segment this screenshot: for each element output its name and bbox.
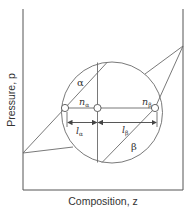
overall-composition-point — [94, 104, 101, 111]
l-alpha-label: lα — [76, 125, 83, 137]
n-beta-label: nβ — [142, 96, 152, 109]
l-beta-label: lβ — [122, 124, 129, 137]
beta-boundary-lower-left — [23, 147, 73, 153]
alpha-label: α — [77, 77, 84, 88]
beta-boundary-upper-right — [155, 46, 183, 108]
alpha-boundary-lower-left — [23, 108, 65, 153]
x-axis-label: Composition, z — [68, 195, 137, 207]
beta-phase-point — [151, 104, 158, 111]
beta-label: β — [131, 141, 137, 152]
n-alpha-label: nα — [79, 96, 89, 108]
y-axis-label: Pressure, p — [5, 73, 17, 127]
alpha-phase-point — [61, 104, 68, 111]
alpha-boundary-upper-right — [145, 46, 183, 74]
lever-rule-diagram: α β nα nβ lα lβ Composition, z Pressure,… — [0, 0, 196, 216]
